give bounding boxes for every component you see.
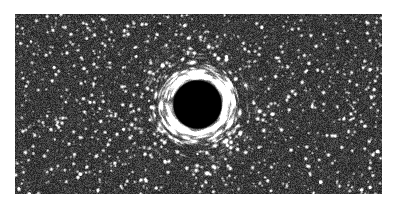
black-hole-image: [15, 14, 382, 194]
screenshot-root: Black Hole Gravitational Lensing Simulat…: [0, 0, 397, 208]
starfield-lensing-canvas: [15, 14, 382, 194]
